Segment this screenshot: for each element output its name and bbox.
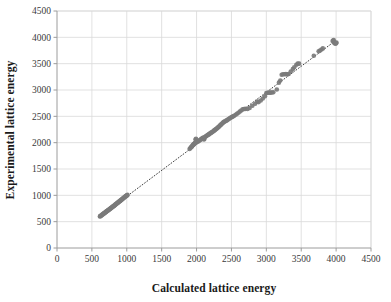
x-axis-title: Calculated lattice energy [152, 282, 277, 295]
x-tick-label: 0 [55, 254, 60, 264]
data-point [278, 78, 283, 83]
x-tick-label: 3500 [292, 254, 311, 264]
y-tick-label: 2000 [32, 138, 51, 148]
y-tick-label: 1500 [32, 164, 51, 174]
x-tick-label: 1000 [117, 254, 136, 264]
y-tick-labels: 050010001500200025003000350040004500 [32, 6, 51, 253]
y-tick-label: 3500 [32, 59, 51, 69]
x-tick-label: 1500 [152, 254, 171, 264]
x-tick-label: 500 [85, 254, 100, 264]
y-tick-label: 4000 [32, 33, 51, 43]
data-point [321, 46, 326, 51]
y-tick-label: 500 [37, 217, 52, 227]
plot-svg: 050010001500200025003000350040004500 050… [0, 0, 391, 302]
data-point [275, 87, 280, 92]
scatter-chart: 050010001500200025003000350040004500 050… [0, 0, 391, 302]
data-point [311, 53, 316, 58]
y-tick-label: 3000 [32, 85, 51, 95]
x-tick-label: 2000 [187, 254, 206, 264]
data-point [334, 40, 339, 45]
y-tick-label: 0 [46, 243, 51, 253]
x-tick-label: 3000 [257, 254, 276, 264]
data-point [297, 61, 302, 66]
y-axis-title: Experimental lattice energy [4, 60, 17, 199]
data-point [125, 193, 130, 198]
x-tick-label: 2500 [222, 254, 241, 264]
y-tick-label: 4500 [32, 6, 51, 16]
x-tick-labels: 050010001500200025003000350040004500 [55, 254, 381, 264]
x-tick-label: 4500 [362, 254, 381, 264]
data-points [98, 38, 339, 219]
y-tick-label: 2500 [32, 112, 51, 122]
x-tick-label: 4000 [327, 254, 346, 264]
y-tick-label: 1000 [32, 191, 51, 201]
